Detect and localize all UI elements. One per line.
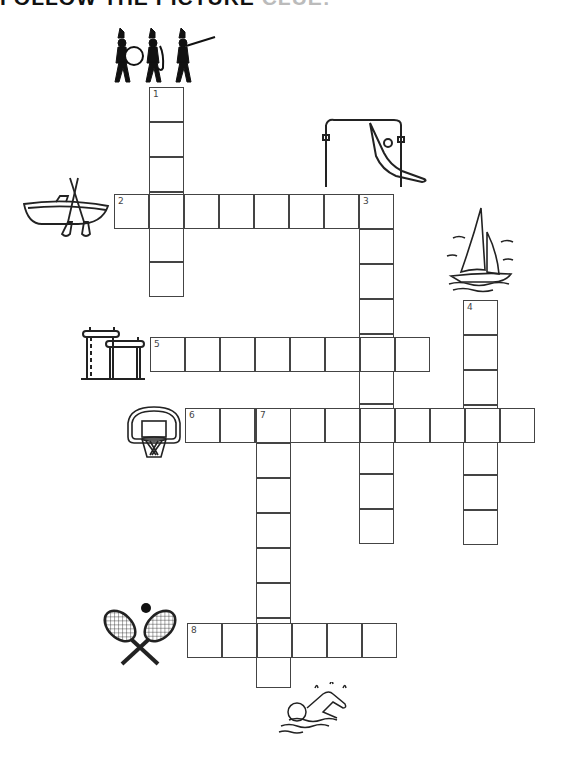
- clue-number: 1: [153, 89, 159, 99]
- clue-number: 5: [154, 339, 160, 349]
- gymnast-high-bar-icon: [320, 115, 430, 190]
- swimmer-icon: [275, 682, 355, 737]
- crossword-cell[interactable]: [463, 440, 498, 475]
- crossword-cell[interactable]: [360, 337, 395, 372]
- crossword-cell[interactable]: [325, 337, 360, 372]
- crossword-cell[interactable]: [256, 583, 291, 618]
- crossword-cell[interactable]: [219, 194, 254, 229]
- marching-band-icon: [112, 26, 217, 84]
- crossword-cell[interactable]: 8: [187, 623, 222, 658]
- crossword-cell[interactable]: 4: [463, 300, 498, 335]
- crossword-cell[interactable]: [362, 623, 397, 658]
- crossword-cell[interactable]: [149, 157, 184, 192]
- clue-number: 6: [189, 410, 195, 420]
- crossword-cell[interactable]: [463, 475, 498, 510]
- crossword-cell[interactable]: [395, 337, 430, 372]
- crossword-cell[interactable]: [463, 335, 498, 370]
- crossword-cell[interactable]: [359, 299, 394, 334]
- crossword-cell[interactable]: [324, 194, 359, 229]
- clue-number: 7: [260, 410, 266, 420]
- clue-number: 8: [191, 625, 197, 635]
- crossword-cell[interactable]: [325, 408, 360, 443]
- crossword-cell[interactable]: 1: [149, 87, 184, 122]
- title-faded: CLUE:: [262, 0, 331, 9]
- crossword-cell[interactable]: [430, 408, 465, 443]
- crossword-cell[interactable]: 5: [150, 337, 185, 372]
- crossword-cell[interactable]: [395, 408, 430, 443]
- rowboat-icon: [22, 176, 114, 241]
- crossword-cell[interactable]: [149, 194, 184, 229]
- clue-number: 2: [118, 196, 124, 206]
- crossword-cell[interactable]: [359, 474, 394, 509]
- crossword-cell[interactable]: [359, 439, 394, 474]
- crossword-cell[interactable]: [184, 194, 219, 229]
- crossword-cell[interactable]: [359, 229, 394, 264]
- crossword-cell[interactable]: [149, 122, 184, 157]
- crossword-cell[interactable]: [359, 264, 394, 299]
- crossword-cell[interactable]: [292, 623, 327, 658]
- crossword-cell[interactable]: [359, 509, 394, 544]
- crossword-cell[interactable]: [149, 262, 184, 297]
- crossword-cell[interactable]: [222, 623, 257, 658]
- crossword-cell[interactable]: [290, 337, 325, 372]
- crossword-cell[interactable]: [463, 510, 498, 545]
- clue-number: 4: [467, 302, 473, 312]
- crossword-cell[interactable]: [360, 408, 395, 443]
- crossword-cell[interactable]: [289, 194, 324, 229]
- crossword-cell[interactable]: [220, 408, 255, 443]
- crossword-cell[interactable]: [256, 443, 291, 478]
- crossword-cell[interactable]: [255, 337, 290, 372]
- crossword-cell[interactable]: [185, 337, 220, 372]
- crossword-cell[interactable]: [257, 623, 292, 658]
- crossword-cell[interactable]: [463, 370, 498, 405]
- crossword-cell[interactable]: [220, 337, 255, 372]
- parallel-bars-icon: [80, 323, 146, 381]
- crossword-cell[interactable]: [256, 548, 291, 583]
- basketball-hoop-icon: [124, 403, 184, 463]
- crossword-cell[interactable]: [359, 369, 394, 404]
- crossword-cell[interactable]: 2: [114, 194, 149, 229]
- crossword-cell[interactable]: 7: [256, 408, 291, 443]
- crossword-cell[interactable]: [327, 623, 362, 658]
- crossword-cell[interactable]: [290, 408, 325, 443]
- crossword-cell[interactable]: [256, 513, 291, 548]
- tennis-rackets-icon: [100, 598, 180, 668]
- title-main: FOLLOW THE PICTURE: [0, 0, 262, 9]
- crossword-cell[interactable]: [149, 227, 184, 262]
- crossword-cell[interactable]: [465, 408, 500, 443]
- crossword-cell[interactable]: 6: [185, 408, 220, 443]
- crossword-cell[interactable]: 3: [359, 194, 394, 229]
- crossword-cell[interactable]: [500, 408, 535, 443]
- crossword-cell[interactable]: [254, 194, 289, 229]
- clue-number: 3: [363, 196, 369, 206]
- crossword-cell[interactable]: [256, 478, 291, 513]
- sailboat-icon: [443, 204, 518, 294]
- page-title: FOLLOW THE PICTURE CLUE:: [0, 0, 331, 10]
